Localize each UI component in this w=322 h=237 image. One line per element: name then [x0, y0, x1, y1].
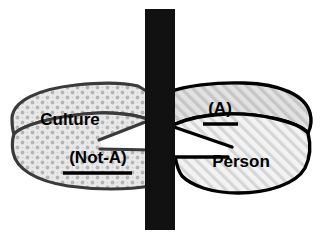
person-label: Person	[212, 152, 270, 171]
mobius-band-diagram: Culture (Not-A) (A) Person	[0, 0, 322, 237]
diagram-canvas: Culture (Not-A) (A) Person	[0, 0, 322, 237]
right-band-group: (A) Person	[169, 83, 311, 193]
not-a-label: (Not-A)	[69, 148, 127, 167]
left-band-group: Culture (Not-A)	[12, 83, 153, 189]
culture-label: Culture	[40, 110, 100, 129]
vertical-black-bar	[145, 9, 175, 230]
a-label: (A)	[208, 99, 232, 118]
